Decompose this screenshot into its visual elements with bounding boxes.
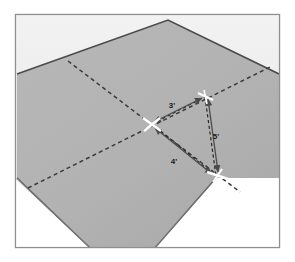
- dimension-label-3ft: 3': [169, 101, 175, 110]
- dimension-label-4ft: 4': [171, 157, 177, 166]
- dimension-label-5ft: 5': [213, 132, 219, 141]
- floor-layout-diagram: 3' 4' 5': [0, 0, 295, 262]
- figure-page: 3' 4' 5': [0, 0, 295, 262]
